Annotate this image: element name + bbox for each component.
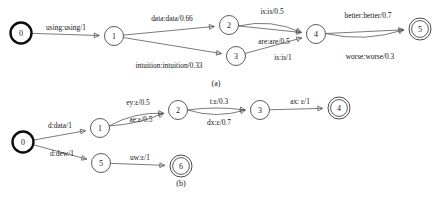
state-node[interactable]: 5 bbox=[92, 154, 111, 173]
state-number-label: 0 bbox=[21, 138, 25, 147]
transition-edge bbox=[188, 110, 246, 115]
arrow-head-icon bbox=[80, 129, 85, 134]
state-node[interactable]: 6 bbox=[170, 155, 192, 177]
state-node[interactable]: 1 bbox=[105, 27, 124, 46]
arrow-head-icon bbox=[81, 156, 86, 161]
state-node[interactable]: 1 bbox=[91, 119, 110, 138]
transition-edge bbox=[325, 30, 403, 38]
edge-label: intuition:intuition/0.33 bbox=[135, 61, 202, 70]
state-node[interactable]: 3 bbox=[251, 101, 270, 120]
edge-label: is:is/0.5 bbox=[260, 7, 284, 16]
panel-caption: (a) bbox=[212, 79, 221, 88]
edge-label: using:using/1 bbox=[46, 23, 86, 32]
arrow-head-icon bbox=[296, 37, 301, 42]
edge-label: ae:ε/0.5 bbox=[129, 115, 152, 124]
state-number-label: 1 bbox=[98, 124, 102, 133]
transition-edge bbox=[110, 163, 164, 165]
state-node[interactable]: 0 bbox=[11, 23, 32, 44]
edge-label: ax: ε/1 bbox=[290, 97, 310, 106]
state-number-label: 5 bbox=[418, 25, 422, 34]
edge-label: t:ε/0.3 bbox=[210, 97, 229, 106]
transition-edge bbox=[31, 33, 99, 35]
state-number-label: 5 bbox=[99, 159, 103, 168]
edge-label: d:dew/1 bbox=[50, 149, 74, 158]
transition-edge bbox=[123, 38, 221, 54]
state-node[interactable]: 2 bbox=[220, 16, 239, 35]
edge-label: data:data/0.66 bbox=[151, 14, 193, 23]
edge-label: ey:ε/0.5 bbox=[126, 98, 150, 107]
edge-label: worse:worse/0.3 bbox=[346, 52, 395, 61]
state-number-label: 0 bbox=[19, 29, 23, 38]
edge-label: d:data/1 bbox=[48, 121, 72, 130]
state-node[interactable]: 2 bbox=[169, 101, 188, 120]
edge-label: uw:ε/1 bbox=[130, 153, 150, 162]
transition-edge bbox=[33, 131, 85, 140]
edge-label: dx:ε/0.7 bbox=[207, 118, 231, 127]
state-node[interactable]: 4 bbox=[307, 25, 326, 44]
edge-label: is:is/1 bbox=[274, 53, 292, 62]
panel-caption: (b) bbox=[176, 179, 186, 188]
state-number-label: 4 bbox=[314, 30, 318, 39]
edge-label: better:better/0.7 bbox=[345, 11, 392, 20]
state-node[interactable]: 5 bbox=[409, 18, 431, 40]
state-number-label: 2 bbox=[227, 21, 231, 30]
state-node[interactable]: 4 bbox=[328, 97, 350, 119]
state-number-label: 3 bbox=[234, 52, 238, 61]
state-number-label: 4 bbox=[337, 104, 341, 113]
transition-edge bbox=[123, 26, 214, 35]
transition-edge bbox=[238, 26, 301, 33]
state-node[interactable]: 3 bbox=[227, 47, 246, 66]
state-number-label: 2 bbox=[176, 106, 180, 115]
transition-edge bbox=[270, 108, 323, 109]
transition-edge bbox=[188, 108, 246, 110]
state-number-label: 3 bbox=[258, 106, 262, 115]
wfst-diagram-canvas: 0123450123456 using:using/1data:data/0.6… bbox=[0, 0, 446, 200]
state-number-label: 1 bbox=[112, 32, 116, 41]
transition-edge bbox=[238, 23, 301, 32]
figure-root: 0123450123456 using:using/1data:data/0.6… bbox=[0, 0, 446, 200]
state-node[interactable]: 0 bbox=[13, 132, 34, 153]
edges-layer bbox=[31, 23, 403, 167]
edge-label: are:are/0.5 bbox=[258, 37, 290, 46]
state-number-label: 6 bbox=[179, 162, 183, 171]
